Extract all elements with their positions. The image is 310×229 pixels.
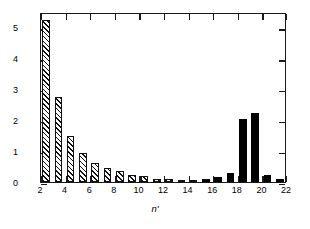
bar-hatched-n11 — [153, 179, 161, 182]
bar-hatched-n12 — [165, 179, 173, 182]
x-tick-label-14: 14 — [178, 186, 198, 195]
y-tick-2 — [279, 122, 285, 123]
bar-solid-n17 — [227, 173, 235, 182]
bar-hatched-n14 — [190, 180, 198, 182]
bar-solid-n15 — [202, 180, 210, 182]
x-tick-label-22: 22 — [276, 186, 296, 195]
x-tick-22 — [286, 14, 287, 20]
x-tick-10 — [139, 14, 140, 20]
x-axis-title-text: n' — [151, 203, 158, 214]
y-tick-5 — [279, 29, 285, 30]
x-tick-label-4: 4 — [55, 186, 75, 195]
x-tick-12 — [164, 14, 165, 20]
x-tick-6 — [90, 14, 91, 20]
x-tick-20 — [262, 14, 263, 20]
y-tick-1 — [279, 153, 285, 154]
bar-hatched-n5 — [79, 153, 87, 182]
bar-hatched-n2 — [42, 20, 50, 182]
bar-hatched-n9 — [128, 175, 136, 182]
x-tick-label-10: 10 — [128, 186, 148, 195]
bar-solid-n18 — [239, 119, 247, 182]
y-tick-label-5: 5 — [4, 24, 18, 33]
x-tick-4 — [66, 14, 67, 20]
x-tick-label-2: 2 — [30, 186, 50, 195]
bar-chart-figure: An'(p, 18a) : Kn'(p, 18a) (104 s-1) n' 0… — [0, 0, 310, 229]
bar-hatched-n6 — [91, 163, 99, 182]
bar-solid-n21 — [276, 179, 284, 182]
bar-solid-n16 — [214, 177, 222, 182]
bar-solid-n19 — [251, 113, 259, 182]
bar-solid-n20 — [264, 175, 272, 182]
x-tick-18 — [238, 14, 239, 20]
x-tick-22 — [286, 176, 287, 182]
y-tick-label-1: 1 — [4, 148, 18, 157]
x-tick-label-6: 6 — [79, 186, 99, 195]
y-tick-label-2: 2 — [4, 117, 18, 126]
y-tick-3 — [279, 91, 285, 92]
y-tick-4 — [279, 60, 285, 61]
x-tick-14 — [189, 14, 190, 20]
bar-hatched-n4 — [67, 136, 75, 182]
bar-hatched-n8 — [116, 171, 124, 182]
bar-hatched-n10 — [141, 176, 149, 182]
bar-hatched-n3 — [55, 97, 63, 182]
y-tick-label-4: 4 — [4, 55, 18, 64]
x-tick-label-18: 18 — [227, 186, 247, 195]
x-tick-label-16: 16 — [202, 186, 222, 195]
x-tick-8 — [115, 14, 116, 20]
x-tick-16 — [213, 14, 214, 20]
x-tick-label-20: 20 — [251, 186, 271, 195]
y-tick-label-3: 3 — [4, 86, 18, 95]
bar-hatched-n13 — [178, 180, 186, 182]
x-tick-label-12: 12 — [153, 186, 173, 195]
plot-area — [40, 13, 286, 183]
bars-container — [41, 14, 285, 182]
x-axis-title: n' — [0, 203, 310, 214]
y-tick-label-0: 0 — [4, 179, 18, 188]
bar-hatched-n7 — [104, 168, 112, 182]
x-tick-label-8: 8 — [104, 186, 124, 195]
